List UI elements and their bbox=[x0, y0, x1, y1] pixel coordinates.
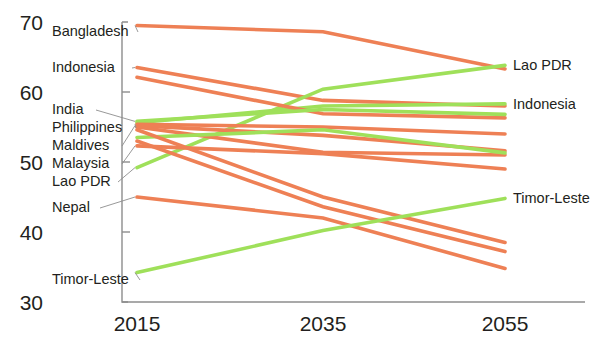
chart-right-series-labels: Lao PDRIndonesiaTimor-Leste bbox=[513, 57, 590, 206]
chart-x-axis-labels: 201520352055 bbox=[114, 312, 529, 335]
y-tick-label: 40 bbox=[20, 221, 43, 244]
series-label-left-indonesia: Indonesia bbox=[52, 59, 116, 75]
leader-line bbox=[122, 126, 135, 146]
line-chart: 3040506070 201520352055 BangladeshIndone… bbox=[0, 0, 593, 340]
y-tick-label: 30 bbox=[20, 291, 43, 314]
series-label-left-india: India bbox=[52, 101, 84, 117]
x-tick-label: 2015 bbox=[114, 312, 161, 335]
y-tick-label: 60 bbox=[20, 81, 43, 104]
chart-line-timor-leste bbox=[137, 198, 505, 272]
chart-left-series-labels: BangladeshIndonesiaIndiaPhilippinesMaldi… bbox=[52, 23, 129, 287]
series-label-left-maldives: Maldives bbox=[52, 137, 109, 153]
chart-series-lines bbox=[137, 26, 505, 273]
leader-line bbox=[132, 68, 135, 69]
chart-line-bangladesh bbox=[137, 26, 505, 69]
series-label-right-timor-leste: Timor-Leste bbox=[513, 190, 590, 206]
series-label-left-lao-pdr: Lao PDR bbox=[52, 173, 111, 189]
series-label-right-indonesia: Indonesia bbox=[513, 96, 577, 112]
series-label-right-lao-pdr: Lao PDR bbox=[513, 57, 572, 73]
chart-plot-area: 3040506070 201520352055 BangladeshIndone… bbox=[0, 0, 593, 340]
y-tick-label: 70 bbox=[20, 11, 43, 34]
series-label-left-malaysia: Malaysia bbox=[52, 155, 110, 171]
chart-y-axis-labels: 3040506070 bbox=[20, 11, 43, 314]
x-tick-label: 2055 bbox=[482, 312, 529, 335]
series-label-left-timor-leste: Timor-Leste bbox=[52, 271, 129, 287]
leader-line bbox=[100, 197, 135, 208]
series-label-left-philippines: Philippines bbox=[52, 119, 122, 135]
series-label-left-nepal: Nepal bbox=[52, 199, 90, 215]
leader-line bbox=[118, 168, 135, 182]
y-tick-label: 50 bbox=[20, 151, 43, 174]
x-tick-label: 2035 bbox=[300, 312, 347, 335]
leader-line bbox=[122, 146, 135, 164]
series-label-left-bangladesh: Bangladesh bbox=[52, 23, 129, 39]
